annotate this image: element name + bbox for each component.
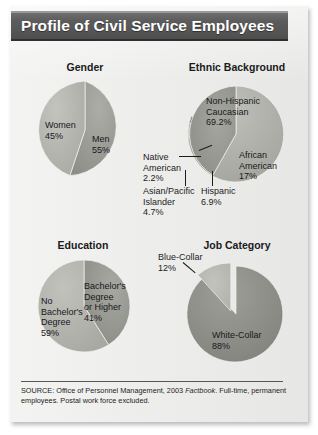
source-note: SOURCE: Office of Personnel Management, … — [21, 386, 287, 405]
leader-line-hispanic — [212, 171, 213, 186]
pie-label-men: Men 55% — [92, 134, 110, 155]
infographic-figure: Profile of Civil Service Employees Gende… — [0, 0, 318, 435]
pie-label-women: Women 45% — [45, 120, 76, 141]
chart-title-ethnic-background: Ethnic Background — [178, 61, 296, 73]
leader-line-native-american — [179, 156, 201, 157]
pie-label-no-bachelors-degree: No Bachelor's Degree 59% — [41, 296, 83, 338]
figure-title: Profile of Civil Service Employees — [11, 17, 274, 35]
source-divider — [21, 381, 283, 382]
pie-label-white-collar: White-Collar 88% — [212, 330, 262, 351]
pie-label-asian-pacific-islander: Asian/Pacific Islander 4.7% — [143, 186, 195, 218]
leader-line-asian-pacific-islander — [185, 170, 186, 186]
pie-label-non-hispanic-caucasian: Non-Hispanic Caucasian 69.2% — [206, 96, 260, 128]
pie-label-hispanic: Hispanic 6.9% — [201, 186, 236, 207]
figure-title-bar: Profile of Civil Service Employees — [11, 11, 288, 41]
pie-label-native-american: Native American 2.2% — [143, 152, 181, 184]
source-publication-title: Factbook — [185, 386, 215, 395]
chart-title-gender: Gender — [30, 61, 140, 73]
chart-title-job-category: Job Category — [182, 239, 292, 251]
chart-title-education: Education — [28, 239, 138, 251]
source-prefix: SOURCE: Office of Personnel Management, … — [21, 386, 185, 395]
pie-label-african-american: African American 17% — [239, 150, 277, 182]
pie-label-bachelors-degree-or-higher: Bachelor's Degree or Higher 41% — [84, 281, 126, 323]
pie-label-blue-collar: Blue-Collar 12% — [158, 252, 203, 273]
